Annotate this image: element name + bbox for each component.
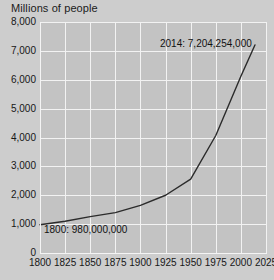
gridline-vertical xyxy=(266,22,267,253)
y-tick-label: 6,000 xyxy=(2,74,36,85)
y-tick-label: 4,000 xyxy=(2,132,36,143)
y-axis-tick-labels: 8,0007,0006,0005,0004,0003,0002,0001,000… xyxy=(0,22,36,253)
chart-title: Millions of people xyxy=(11,2,98,14)
data-line-svg xyxy=(40,22,266,253)
annotation-start-label: 1800: 980,000,000 xyxy=(44,224,127,235)
annotation-end-label: 2014: 7,204,254,000 xyxy=(160,38,252,49)
y-tick-label: 1,000 xyxy=(2,218,36,229)
y-tick-label: 5,000 xyxy=(2,103,36,114)
y-tick-label: 2,000 xyxy=(2,189,36,200)
x-tick-label: 2025 xyxy=(246,257,274,268)
y-axis-line xyxy=(40,22,41,254)
y-tick-label: 7,000 xyxy=(2,45,36,56)
y-tick-label: 8,000 xyxy=(2,16,36,27)
plot-area xyxy=(40,22,266,253)
y-tick-label: 3,000 xyxy=(2,160,36,171)
x-axis-line xyxy=(40,253,267,254)
x-axis-tick-labels: 1800182518501875190019251950197520002025 xyxy=(40,257,267,273)
population-line-chart: Millions of people 8,0007,0006,0005,0004… xyxy=(0,0,274,280)
population-line xyxy=(40,45,255,225)
